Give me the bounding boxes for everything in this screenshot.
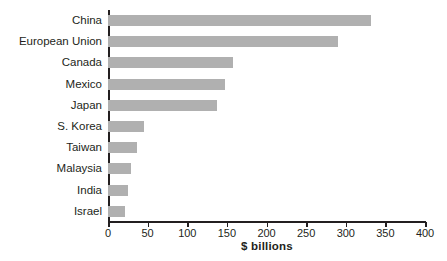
x-axis-tick-label: 350 <box>365 227 405 239</box>
category-label: Mexico <box>66 76 102 92</box>
bar-mexico <box>108 79 225 90</box>
x-axis-tick-label: 100 <box>167 227 207 239</box>
bar-s-korea <box>108 121 144 132</box>
bar-japan <box>108 100 217 111</box>
x-axis-tick-label: 200 <box>247 227 287 239</box>
bar-canada <box>108 57 233 68</box>
bar-china <box>108 15 371 26</box>
x-axis-tick-label: 150 <box>207 227 247 239</box>
plot-area: ChinaEuropean UnionCanadaMexicoJapanS. K… <box>108 10 425 222</box>
category-label: European Union <box>19 33 102 49</box>
bar-malaysia <box>108 163 131 174</box>
bar-israel <box>108 206 125 217</box>
bar-chart: ChinaEuropean UnionCanadaMexicoJapanS. K… <box>0 0 447 261</box>
bar-row: Canada <box>108 52 425 73</box>
x-axis-tick-label: 50 <box>128 227 168 239</box>
category-label: Taiwan <box>66 139 102 155</box>
category-label: Canada <box>62 54 102 70</box>
bar-row: China <box>108 10 425 31</box>
bar-row: Japan <box>108 95 425 116</box>
category-label: China <box>72 12 102 28</box>
x-axis-tick-label: 250 <box>286 227 326 239</box>
bar-european-union <box>108 36 338 47</box>
x-axis-tick-label: 300 <box>326 227 366 239</box>
bar-row: Israel <box>108 201 425 222</box>
bar-row: European Union <box>108 31 425 52</box>
bar-row: Mexico <box>108 74 425 95</box>
bar-row: India <box>108 180 425 201</box>
bar-india <box>108 185 128 196</box>
category-label: Malaysia <box>57 160 102 176</box>
x-axis-tick-label: 400 <box>405 227 445 239</box>
category-label: India <box>77 182 102 198</box>
category-label: S. Korea <box>57 118 102 134</box>
bar-taiwan <box>108 142 137 153</box>
bar-row: Taiwan <box>108 137 425 158</box>
bar-row: Malaysia <box>108 158 425 179</box>
bar-row: S. Korea <box>108 116 425 137</box>
x-axis-tick-label: 0 <box>88 227 128 239</box>
x-axis-title: $ billions <box>108 240 426 252</box>
category-label: Israel <box>74 203 102 219</box>
category-label: Japan <box>71 97 102 113</box>
